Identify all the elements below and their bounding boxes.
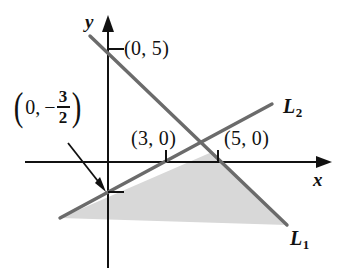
frac-label-comma: , xyxy=(35,96,40,119)
fraction-three-halves: 3 2 xyxy=(57,88,70,127)
line-label-L1: L1 xyxy=(290,228,309,251)
line-label-L2-letter: L xyxy=(283,95,295,117)
label-point-3-0: (3, 0) xyxy=(131,128,176,148)
line-label-L1-letter: L xyxy=(290,227,302,249)
x-axis-arrow-icon xyxy=(316,156,332,168)
y-axis-label: y xyxy=(85,12,93,31)
line-label-L2-subscript: 2 xyxy=(296,105,303,120)
label-point-5-0: (5, 0) xyxy=(224,128,269,148)
line-label-L1-subscript: 1 xyxy=(303,237,310,252)
close-paren: ) xyxy=(71,91,81,124)
fraction-denominator: 2 xyxy=(58,109,69,126)
label-point-0-neg-three-halves: ( 0, − 3 2 ) xyxy=(12,88,83,127)
open-paren: ( xyxy=(14,91,24,124)
frac-label-zero: 0 xyxy=(25,96,35,119)
label-point-0-5: (0, 5) xyxy=(124,38,169,58)
fraction-numerator: 3 xyxy=(58,88,69,105)
line-label-L2: L2 xyxy=(283,96,302,119)
callout-arrow-line xyxy=(68,143,101,185)
frac-label-minus: − xyxy=(44,96,55,119)
x-axis-label: x xyxy=(313,170,323,189)
y-axis-arrow-icon xyxy=(102,15,114,32)
